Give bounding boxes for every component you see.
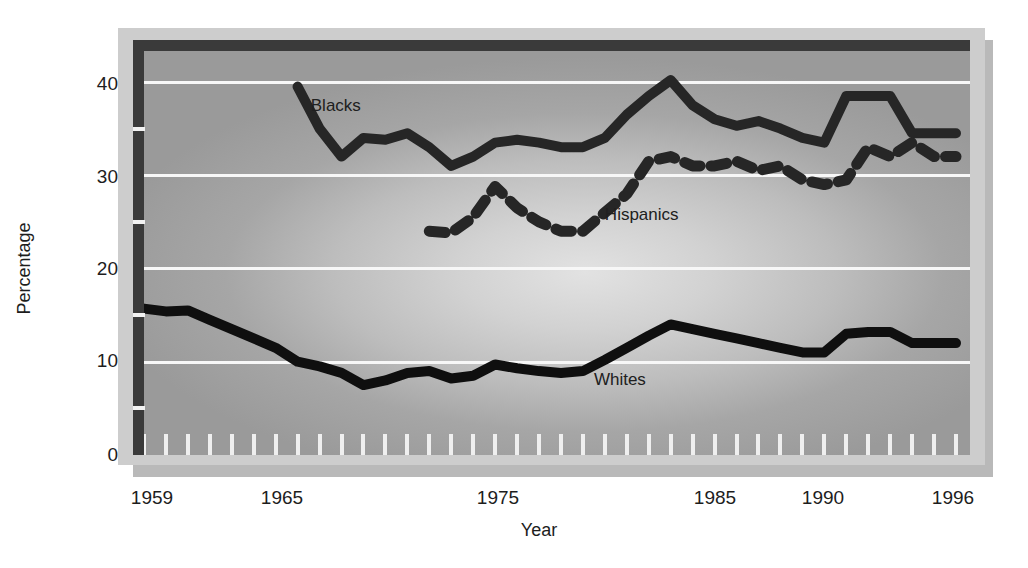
axis-spine-top: [133, 40, 970, 51]
series-label-hispanics: Hispanics: [605, 205, 679, 225]
y-tick-label-10: 10: [78, 350, 118, 372]
y-axis-title: Percentage: [14, 199, 35, 339]
x-tick-label-1985: 1985: [680, 487, 750, 509]
y-minor-tick: [133, 313, 145, 317]
x-tick-label-1965: 1965: [247, 487, 317, 509]
x-tick-label-1996: 1996: [918, 487, 988, 509]
series-label-whites: Whites: [594, 370, 646, 390]
x-axis-title: Year: [479, 520, 599, 541]
y-minor-tick: [133, 406, 145, 410]
chart-figure: 40 30 20 10 0 1959 1965 1975 1985 1990 1…: [0, 0, 1028, 568]
y-tick-label-40: 40: [78, 73, 118, 95]
x-tick-label-1975: 1975: [463, 487, 533, 509]
y-minor-tick: [133, 127, 145, 131]
y-tick-label-20: 20: [78, 258, 118, 280]
series-line-whites: [144, 309, 956, 386]
y-tick-label-30: 30: [78, 166, 118, 188]
series-line-blacks: [298, 80, 956, 166]
x-tick-label-1990: 1990: [788, 487, 858, 509]
series-lines: [133, 40, 970, 455]
series-line-hispanics: [429, 143, 956, 233]
y-minor-tick: [133, 220, 145, 224]
plot-area: [133, 40, 970, 455]
y-tick-label-0: 0: [78, 444, 118, 466]
series-label-blacks: Blacks: [311, 96, 361, 116]
axis-spine-left: [133, 40, 144, 455]
x-tick-label-1959: 1959: [117, 487, 187, 509]
